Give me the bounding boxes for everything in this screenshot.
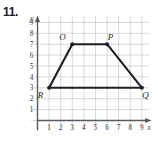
x-tick-label: 4 <box>82 124 86 132</box>
y-axis-arrowhead <box>35 15 40 21</box>
axis-names-group: xy <box>29 14 151 131</box>
x-axis-label: x <box>146 123 151 132</box>
coordinate-plane-svg: 123456789123456789 ROPQ xy <box>28 7 158 141</box>
coordinate-plane-figure: 123456789123456789 ROPQ xy <box>28 7 158 141</box>
y-tick-label: 5 <box>30 63 34 71</box>
vertex-point-p <box>105 42 109 46</box>
y-tick-label: 3 <box>30 84 34 92</box>
y-tick-label: 6 <box>30 52 34 60</box>
grid-lines-group <box>31 15 149 130</box>
vertex-label-q: Q <box>142 90 149 100</box>
x-tick-label: 3 <box>71 124 75 132</box>
axes-group <box>35 15 152 130</box>
x-tick-label: 2 <box>59 124 63 132</box>
x-tick-label: 1 <box>47 124 51 132</box>
vertex-point-o <box>70 42 74 46</box>
tick-labels-group: 123456789123456789 <box>30 19 144 132</box>
x-tick-label: 8 <box>129 124 133 132</box>
problem-figure-container: 11. 123456789123456789 ROPQ xy <box>0 0 158 141</box>
x-tick-label: 6 <box>105 124 109 132</box>
x-tick-label: 9 <box>140 124 144 132</box>
y-tick-label: 2 <box>30 95 34 103</box>
y-axis-label: y <box>29 14 34 23</box>
y-tick-label: 8 <box>30 30 34 38</box>
vertex-label-r: R <box>37 90 44 100</box>
problem-number: 11. <box>3 6 18 18</box>
y-tick-label: 1 <box>30 106 34 114</box>
vertex-label-p: P <box>107 32 114 42</box>
vertex-point-r <box>47 86 51 90</box>
y-tick-label: 4 <box>30 74 34 82</box>
x-tick-label: 7 <box>117 124 121 132</box>
vertex-label-o: O <box>59 32 66 42</box>
y-tick-label: 7 <box>30 41 34 49</box>
x-tick-label: 5 <box>94 124 98 132</box>
